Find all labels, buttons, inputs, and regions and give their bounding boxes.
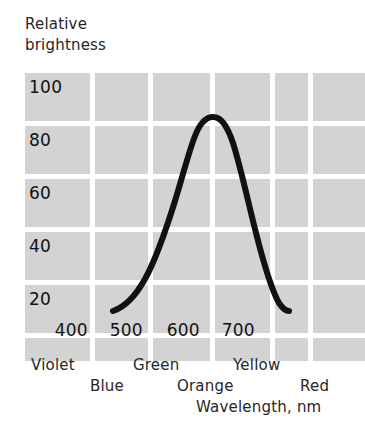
x-tick-label-400: 400: [30, 322, 88, 339]
grid-cell: [215, 179, 270, 227]
grid-cell: [95, 126, 148, 174]
grid-cell: [153, 232, 210, 280]
grid-cell: [313, 285, 365, 333]
band-label-blue: Blue: [90, 378, 124, 395]
grid-cell: [313, 232, 365, 280]
grid-cell: [275, 179, 308, 227]
grid-cell: [275, 285, 308, 333]
grid-cell: [153, 126, 210, 174]
grid-cell: [153, 179, 210, 227]
y-tick-label-40: 40: [29, 238, 51, 255]
grid-cell: [215, 126, 270, 174]
chart-plot-area: 100 80 60 40 20 400 500 600 700: [25, 73, 340, 336]
grid-cell: [215, 73, 270, 121]
grid-cell: [95, 73, 148, 121]
grid-cell: [313, 73, 365, 121]
grid-cell: [95, 232, 148, 280]
band-label-red: Red: [300, 378, 329, 395]
grid-cell: [275, 232, 308, 280]
grid-cell: [313, 126, 365, 174]
x-tick-label-700: 700: [205, 322, 255, 339]
y-tick-label-60: 60: [29, 185, 51, 202]
y-tick-label-20: 20: [29, 291, 51, 308]
x-axis-title: Wavelength, nm: [196, 399, 321, 416]
grid-cell: [95, 179, 148, 227]
y-axis-title: Relative brightness: [25, 14, 106, 56]
x-tick-label-500: 500: [95, 322, 143, 339]
grid-cells: [25, 73, 340, 336]
x-tick-label-600: 600: [148, 322, 200, 339]
band-label-orange: Orange: [177, 378, 234, 395]
grid-cell: [313, 179, 365, 227]
band-label-violet: Violet: [31, 357, 75, 374]
band-label-green: Green: [133, 357, 179, 374]
y-tick-label-80: 80: [29, 132, 51, 149]
grid-cell: [153, 73, 210, 121]
y-tick-label-100: 100: [29, 79, 62, 96]
grid-cell: [215, 232, 270, 280]
grid-cell: [275, 126, 308, 174]
grid-cell: [275, 73, 308, 121]
grid-cell: [313, 338, 365, 361]
band-label-yellow: Yellow: [233, 357, 280, 374]
